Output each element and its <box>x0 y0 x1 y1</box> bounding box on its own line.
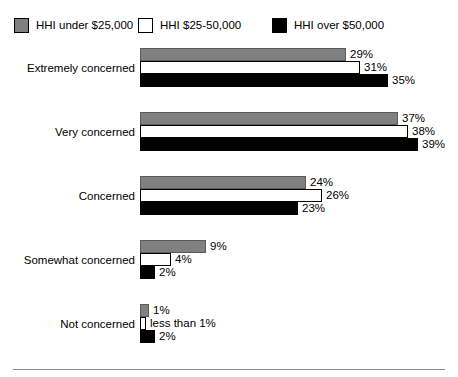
bar-series-hhi-25-50000[interactable] <box>140 253 171 266</box>
bar-value-label: 4% <box>171 253 192 266</box>
bar-series-hhi-over-50000[interactable] <box>140 330 155 343</box>
bar-value-label: 38% <box>408 125 435 138</box>
legend-item-hhi-25-50000: HHI $25-50,000 <box>138 12 241 38</box>
legend-item-hhi-over-50000: HHI over $50,000 <box>272 12 384 38</box>
category-label: Very concerned <box>55 126 135 138</box>
chart-legend: HHI under $25,000 HHI $25-50,000 HHI ove… <box>0 12 458 38</box>
bar-value-label: 2% <box>155 330 176 343</box>
bar-value-label: 2% <box>155 266 176 279</box>
category-label: Concerned <box>79 190 135 202</box>
bar-value-label: 35% <box>388 74 415 87</box>
bar-series-hhi-under-25000[interactable] <box>140 112 398 125</box>
bar-value-label: 37% <box>398 112 425 125</box>
footer-divider <box>13 369 445 370</box>
bar-value-label: 26% <box>322 189 349 202</box>
legend-swatch-icon <box>272 18 287 33</box>
legend-swatch-icon <box>138 18 153 33</box>
legend-item-label: HHI $25-50,000 <box>160 19 241 31</box>
bar-value-label: 39% <box>418 138 445 151</box>
legend-swatch-icon <box>14 18 29 33</box>
bar-series-hhi-over-50000[interactable] <box>140 202 298 215</box>
bar-value-label: 24% <box>306 176 333 189</box>
bar-value-label: 31% <box>360 61 387 74</box>
bar-series-hhi-under-25000[interactable] <box>140 240 206 253</box>
legend-item-label: HHI under $25,000 <box>36 19 133 31</box>
legend-item-hhi-under-25000: HHI under $25,000 <box>14 12 133 38</box>
bar-value-label: less than 1% <box>146 317 216 330</box>
category-label: Extremely concerned <box>27 62 135 74</box>
bar-series-hhi-under-25000[interactable] <box>140 176 306 189</box>
bar-series-hhi-25-50000[interactable] <box>140 125 408 138</box>
bar-series-hhi-over-50000[interactable] <box>140 74 388 87</box>
legend-item-label: HHI over $50,000 <box>294 19 384 31</box>
bar-series-hhi-under-25000[interactable] <box>140 304 149 317</box>
bar-series-hhi-over-50000[interactable] <box>140 138 418 151</box>
bar-value-label: 1% <box>149 304 170 317</box>
category-label: Not concerned <box>60 318 135 330</box>
bar-value-label: 9% <box>206 240 227 253</box>
bar-value-label: 23% <box>298 202 325 215</box>
bar-chart-plot-area: Extremely concerned 29% 31% 35% Very con… <box>0 48 458 360</box>
category-label: Somewhat concerned <box>24 254 135 266</box>
bar-value-label: 29% <box>346 48 373 61</box>
bar-series-hhi-25-50000[interactable] <box>140 61 360 74</box>
bar-series-hhi-under-25000[interactable] <box>140 48 346 61</box>
bar-series-hhi-25-50000[interactable] <box>140 189 322 202</box>
bar-series-hhi-over-50000[interactable] <box>140 266 155 279</box>
